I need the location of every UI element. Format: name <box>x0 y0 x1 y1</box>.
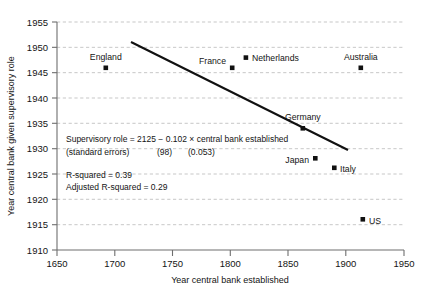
data-point-label: Australia <box>344 52 378 62</box>
y-tick-label: 1930 <box>27 143 48 154</box>
adj-r-squared-text: Adjusted R-squared = 0.29 <box>66 182 168 192</box>
y-tick-label: 1955 <box>27 17 48 28</box>
x-tick-label: 1950 <box>393 258 414 269</box>
scatter-chart: 1955 1950 1945 1940 1935 1930 1925 1920 … <box>0 0 430 291</box>
data-point-marker[interactable] <box>230 66 235 71</box>
y-axis-title: Year central bank given supervisory role <box>6 56 16 216</box>
x-tick-label: 1900 <box>335 258 356 269</box>
std-error-intercept: (98) <box>157 147 172 157</box>
data-point-marker[interactable] <box>332 166 337 171</box>
data-point-label: France <box>199 56 226 66</box>
x-tick-label: 1850 <box>277 258 298 269</box>
y-tick-label: 1950 <box>27 42 48 53</box>
chart-background <box>0 0 430 291</box>
y-tick-label: 1940 <box>27 93 48 104</box>
data-point-label: Germany <box>285 112 321 122</box>
data-point-marker[interactable] <box>313 156 318 161</box>
y-tick-label: 1935 <box>27 118 48 129</box>
x-tick-label: 1700 <box>104 258 125 269</box>
std-errors-label: (standard errors) <box>66 147 129 157</box>
r-squared-text: R-squared = 0.39 <box>66 170 132 180</box>
y-tick-label: 1945 <box>27 67 48 78</box>
data-point-label: Japan <box>285 155 309 165</box>
data-point-marker[interactable] <box>104 66 109 71</box>
data-point-marker[interactable] <box>244 55 249 60</box>
data-point-label: Netherlands <box>252 53 300 63</box>
data-point-label: US <box>369 216 381 226</box>
data-point-marker[interactable] <box>359 66 364 71</box>
y-tick-label: 1925 <box>27 169 48 180</box>
x-tick-label: 1650 <box>46 258 67 269</box>
x-tick-label: 1750 <box>162 258 183 269</box>
y-tick-label: 1915 <box>27 219 48 230</box>
x-tick-label: 1800 <box>220 258 241 269</box>
y-tick-label: 1910 <box>27 245 48 256</box>
x-axis-title: Year central bank established <box>171 275 289 285</box>
y-tick-label: 1920 <box>27 194 48 205</box>
std-error-slope: (0.053) <box>188 147 215 157</box>
data-point-label: Italy <box>340 164 357 174</box>
data-point-marker[interactable] <box>361 217 366 222</box>
data-point-marker[interactable] <box>301 126 306 131</box>
data-point-label: England <box>90 52 122 62</box>
equation-text: Supervisory role = 2125 − 0.102 × centra… <box>66 134 289 144</box>
